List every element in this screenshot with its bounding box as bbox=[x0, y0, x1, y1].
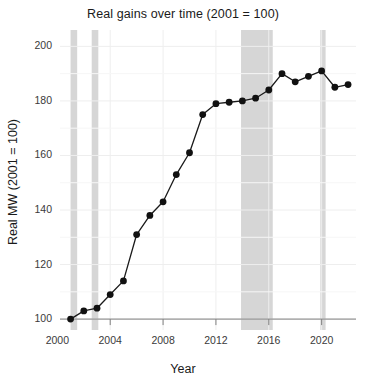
data-line bbox=[71, 71, 349, 319]
series-line bbox=[71, 71, 349, 319]
data-point bbox=[199, 111, 206, 118]
chart-figure: Real gains over time (2001 = 100) Real M… bbox=[0, 0, 366, 386]
data-point bbox=[186, 149, 193, 156]
data-point bbox=[213, 100, 220, 107]
recession-band bbox=[241, 30, 273, 330]
x-tick-label: 2004 bbox=[88, 334, 132, 346]
data-point bbox=[292, 78, 299, 85]
axis-baseline bbox=[60, 46, 356, 325]
y-tick-label: 140 bbox=[18, 203, 52, 215]
data-point bbox=[146, 212, 153, 219]
y-axis-tick-labels: 100120140160180200 bbox=[18, 0, 52, 386]
data-point bbox=[345, 81, 352, 88]
data-point bbox=[305, 73, 312, 80]
y-tick-label: 100 bbox=[18, 312, 52, 324]
data-point bbox=[120, 278, 127, 285]
recession-band bbox=[92, 30, 99, 330]
x-tick-label: 2012 bbox=[194, 334, 238, 346]
data-point bbox=[80, 308, 87, 315]
data-point bbox=[173, 171, 180, 178]
data-point bbox=[133, 231, 140, 238]
x-tick-label: 2008 bbox=[141, 334, 185, 346]
data-point bbox=[252, 95, 259, 102]
data-point bbox=[318, 68, 325, 75]
data-point bbox=[94, 305, 101, 312]
data-point bbox=[67, 316, 74, 323]
data-point bbox=[160, 198, 167, 205]
shaded-recession-bands bbox=[71, 30, 326, 330]
x-tick-label: 2016 bbox=[247, 334, 291, 346]
data-point bbox=[239, 98, 246, 105]
x-tick-label: 2020 bbox=[300, 334, 344, 346]
data-point bbox=[226, 99, 233, 106]
plot-area bbox=[60, 30, 356, 330]
data-point bbox=[265, 87, 272, 94]
chart-title: Real gains over time (2001 = 100) bbox=[0, 7, 366, 21]
data-point bbox=[331, 84, 338, 91]
data-point bbox=[107, 291, 114, 298]
x-axis-label: Year bbox=[0, 362, 366, 376]
data-point bbox=[279, 70, 286, 77]
recession-band bbox=[71, 30, 78, 330]
x-tick-label: 2000 bbox=[35, 334, 79, 346]
y-tick-label: 120 bbox=[18, 258, 52, 270]
y-tick-label: 200 bbox=[18, 39, 52, 51]
y-tick-label: 160 bbox=[18, 148, 52, 160]
y-tick-label: 180 bbox=[18, 94, 52, 106]
